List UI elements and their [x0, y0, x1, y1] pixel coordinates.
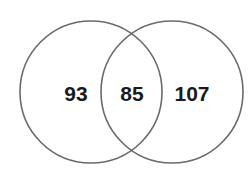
right-only-count: 107: [174, 82, 209, 105]
intersection-count: 85: [120, 82, 144, 105]
venn-diagram: 93 85 107: [0, 0, 248, 176]
left-only-count: 93: [64, 82, 87, 105]
